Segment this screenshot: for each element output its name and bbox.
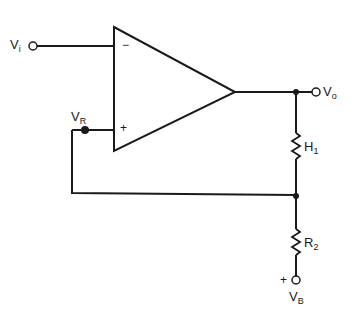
- vb-terminal: [292, 276, 300, 284]
- feedback-wire: [72, 130, 296, 195]
- noninverting-input-symbol: +: [120, 122, 127, 134]
- h1-label: H1: [304, 140, 318, 156]
- vo-terminal: [312, 88, 320, 96]
- r2-label: R2: [304, 236, 318, 252]
- vi-terminal: [29, 42, 37, 50]
- opamp-triangle: [114, 27, 235, 151]
- vb-label: VB: [289, 290, 304, 306]
- vr-label: VR: [71, 110, 86, 126]
- output-node: [293, 89, 299, 95]
- vb-polarity-symbol: +: [280, 274, 287, 286]
- r2-resistor: [292, 229, 300, 255]
- circuit-schematic: [0, 0, 356, 326]
- vr-node: [81, 126, 89, 134]
- vo-label: Vo: [323, 85, 337, 101]
- h1-resistor: [292, 133, 300, 159]
- feedback-node: [293, 193, 299, 199]
- vi-label: Vi: [10, 38, 21, 54]
- inverting-input-symbol: −: [122, 39, 129, 51]
